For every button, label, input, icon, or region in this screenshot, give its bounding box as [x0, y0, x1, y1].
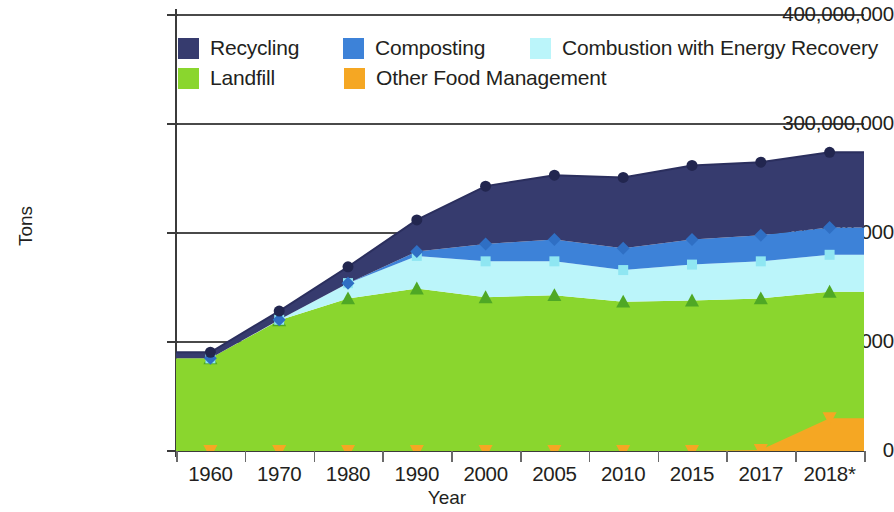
legend-label-recycling: Recycling [210, 36, 299, 60]
x-axis-tick [795, 451, 797, 462]
x-axis-tick [245, 451, 247, 462]
data-point-marker [824, 147, 835, 158]
x-axis-tick-label: 2005 [520, 462, 589, 486]
data-point-marker [549, 256, 559, 266]
x-axis-tick [451, 451, 453, 462]
data-point-marker [274, 306, 285, 317]
x-axis-tick-label: 1990 [382, 462, 451, 486]
legend-swatch-composting [343, 38, 364, 59]
data-point-marker [687, 160, 698, 171]
data-point-marker [618, 172, 629, 183]
data-point-marker [480, 181, 491, 192]
data-point-marker [205, 347, 216, 358]
x-axis-tick-label: 2010 [589, 462, 658, 486]
x-axis-tick-label: 2015 [658, 462, 727, 486]
x-axis-tick [520, 451, 522, 462]
legend-swatch-recycling [178, 38, 199, 59]
data-point-marker [687, 260, 697, 270]
chart-legend: Recycling Composting Combustion with Ene… [178, 33, 878, 93]
legend-item-combustion: Combustion with Energy Recovery [530, 36, 878, 60]
legend-label-other-food-management: Other Food Management [376, 66, 606, 90]
data-point-marker [549, 170, 560, 181]
x-axis-tick-label: 2018* [795, 462, 864, 486]
legend-swatch-combustion [530, 38, 551, 59]
data-point-marker [343, 261, 354, 272]
x-axis-tick [589, 451, 591, 462]
x-axis-tick-label: 1970 [245, 462, 314, 486]
x-axis-tick [726, 451, 728, 462]
x-axis-tick [864, 451, 866, 462]
x-axis-tick [176, 451, 178, 462]
legend-label-combustion: Combustion with Energy Recovery [562, 36, 878, 60]
data-point-marker [755, 157, 766, 168]
legend-label-landfill: Landfill [210, 66, 275, 90]
legend-swatch-other-food-management [344, 68, 365, 89]
legend-item-other-food-management: Other Food Management [344, 66, 606, 90]
x-axis-tick-label: 2017 [726, 462, 795, 486]
legend-label-composting: Composting [375, 36, 485, 60]
x-axis-tick-label: 1960 [176, 462, 245, 486]
data-point-marker [481, 256, 491, 266]
legend-item-landfill: Landfill [178, 66, 344, 90]
x-axis-tick-label: 1980 [314, 462, 383, 486]
data-point-marker [411, 214, 422, 225]
x-axis-tick [314, 451, 316, 462]
legend-swatch-landfill [178, 68, 199, 89]
legend-item-composting: Composting [343, 36, 530, 60]
legend-row: Landfill Other Food Management [178, 63, 878, 93]
x-axis-tick [382, 451, 384, 462]
legend-item-recycling: Recycling [178, 36, 343, 60]
x-axis-tick-label: 2000 [451, 462, 520, 486]
data-point-marker [618, 265, 628, 275]
chart-root: Tons 0100,000,000200,000,000300,000,0004… [0, 0, 894, 512]
data-point-marker [756, 256, 766, 266]
data-point-marker [825, 250, 835, 260]
y-axis-title: Tons [15, 186, 37, 266]
x-axis-tick [658, 451, 660, 462]
legend-row: Recycling Composting Combustion with Ene… [178, 33, 878, 63]
x-axis-title: Year [0, 487, 894, 509]
